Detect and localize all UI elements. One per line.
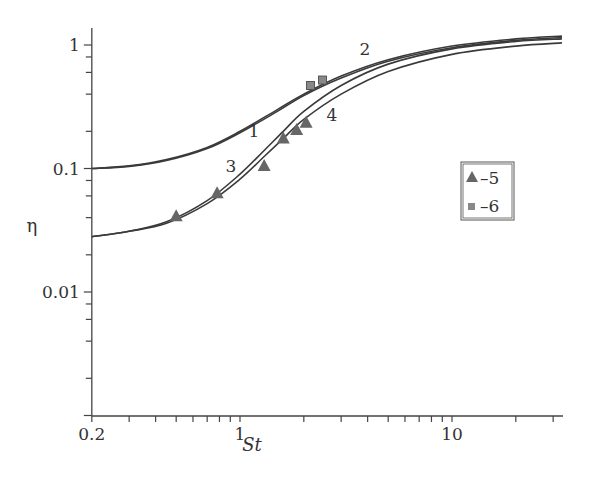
x-tick-label: 0.2 xyxy=(78,424,105,444)
x-tick-label: 10 xyxy=(441,424,463,444)
chart: 10.10.010.2110Stη 1234 –5–6 xyxy=(0,0,591,486)
triangle-marker xyxy=(211,186,224,198)
y-tick-label: 0.01 xyxy=(42,282,80,302)
axes: 10.10.010.2110Stη xyxy=(27,28,563,455)
square-marker xyxy=(319,76,327,84)
x-axis-label: St xyxy=(242,434,262,455)
curve-labels: 1234 xyxy=(226,39,371,176)
curve-label: 3 xyxy=(226,156,237,176)
legend-square-icon xyxy=(468,203,475,210)
markers xyxy=(170,76,327,221)
y-axis-label: η xyxy=(27,215,38,236)
y-tick-label: 0.1 xyxy=(53,159,80,179)
y-tick-label: 1 xyxy=(69,35,80,55)
legend-label-5: –5 xyxy=(480,168,499,188)
legend: –5–6 xyxy=(461,162,514,220)
curve-label: 4 xyxy=(327,105,338,125)
curve-label: 1 xyxy=(249,121,260,141)
legend-label-6: –6 xyxy=(480,196,499,216)
curve-label: 2 xyxy=(360,39,371,59)
square-marker xyxy=(306,81,314,89)
